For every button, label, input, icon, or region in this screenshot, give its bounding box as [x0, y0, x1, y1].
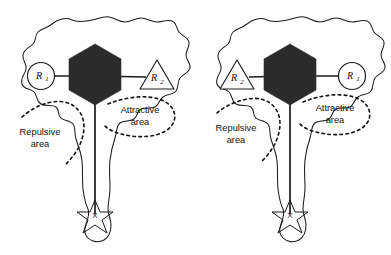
- left-panel: R 1 R 2 Repulsive area Attractive area X: [20, 17, 191, 242]
- right-attractive-line1: Attractive: [316, 103, 355, 113]
- left-node-r1-label: R: [35, 70, 42, 81]
- right-node-r1-sub: 1: [356, 75, 360, 83]
- left-attractive-line1: Attractive: [121, 105, 160, 115]
- right-node-r1-label: R: [346, 70, 353, 81]
- right-node-r2-label: R: [230, 72, 237, 83]
- right-repulsive-line2: area: [227, 135, 246, 145]
- left-attractive-line2: area: [131, 117, 150, 127]
- left-repulsive-line1: Repulsive: [20, 127, 61, 137]
- right-goal-x: X: [287, 211, 293, 220]
- right-panel: R 2 R 1 Repulsive area Attractive area X: [216, 17, 386, 242]
- right-node-r2-sub: 2: [240, 78, 244, 86]
- right-node-r1: R 1: [339, 63, 366, 90]
- diagram-figure: R 1 R 2 Repulsive area Attractive area X: [0, 0, 391, 255]
- left-node-r2: R 2: [140, 60, 174, 89]
- right-node-r2: R 2: [220, 60, 254, 89]
- left-node-r2-label: R: [150, 72, 157, 83]
- left-attractive-label: Attractive area: [121, 105, 160, 127]
- right-repulsive-line1: Repulsive: [216, 123, 257, 133]
- diagram-canvas: R 1 R 2 Repulsive area Attractive area X: [0, 0, 391, 255]
- right-hexagon: [264, 44, 316, 105]
- left-node-r1-sub: 1: [45, 75, 49, 83]
- left-node-r1: R 1: [28, 63, 55, 90]
- left-node-r2-sub: 2: [160, 78, 164, 86]
- left-repulsive-label: Repulsive area: [20, 127, 61, 149]
- left-goal-x: X: [92, 211, 98, 220]
- left-hexagon: [69, 44, 121, 105]
- right-repulsive-label: Repulsive area: [216, 123, 257, 145]
- right-attractive-label: Attractive area: [316, 103, 355, 125]
- right-attractive-line2: area: [326, 115, 345, 125]
- left-repulsive-line2: area: [31, 139, 50, 149]
